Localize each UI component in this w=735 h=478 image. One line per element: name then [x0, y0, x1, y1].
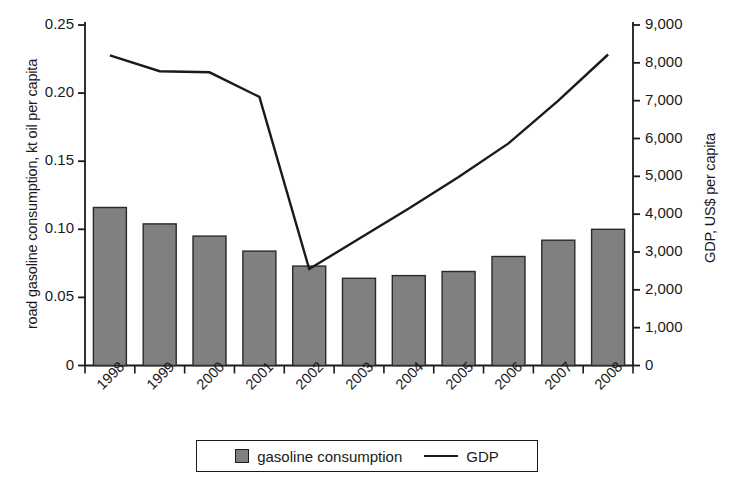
- right-axis-tick-label: 9,000: [645, 16, 715, 31]
- legend-item-gasoline-consumption: gasoline consumption: [235, 448, 402, 465]
- right-axis-tick-label: 7,000: [645, 92, 715, 107]
- bar: [143, 224, 176, 366]
- bar: [343, 278, 376, 365]
- right-axis-ticks: [633, 25, 640, 366]
- right-axis-tick-label: 8,000: [645, 54, 715, 69]
- left-axis-tick-label: 0.05: [14, 288, 74, 303]
- bar: [542, 240, 575, 365]
- right-axis-tick-label: 3,000: [645, 243, 715, 258]
- left-axis-title: road gasoline consumption, kt oil per ca…: [24, 14, 40, 374]
- bar: [293, 266, 326, 365]
- bar: [442, 272, 475, 366]
- right-axis-tick-label: 2,000: [645, 281, 715, 296]
- legend-label-gdp: GDP: [466, 448, 499, 465]
- right-axis-tick-label: 4,000: [645, 205, 715, 220]
- left-axis-tick-label: 0.20: [14, 84, 74, 99]
- legend: gasoline consumption GDP: [196, 440, 538, 472]
- bar: [93, 208, 126, 366]
- bar: [243, 251, 276, 365]
- right-axis-tick-label: 5,000: [645, 167, 715, 182]
- legend-label-gasoline-consumption: gasoline consumption: [257, 448, 402, 465]
- legend-item-gdp: GDP: [424, 448, 499, 465]
- bar: [392, 276, 425, 366]
- chart-container: road gasoline consumption, kt oil per ca…: [0, 0, 735, 478]
- right-axis-tick-label: 6,000: [645, 130, 715, 145]
- right-axis-title: GDP, US$ per capita: [702, 28, 718, 368]
- legend-square-icon: [235, 449, 249, 463]
- bar: [193, 236, 226, 365]
- legend-line-icon: [424, 455, 458, 457]
- plot-area: [0, 0, 735, 478]
- left-axis-tick-label: 0.10: [14, 220, 74, 235]
- left-axis-tick-label: 0: [14, 357, 74, 372]
- bar: [492, 257, 525, 366]
- bar-series-gasoline-consumption: [93, 208, 624, 366]
- bar: [592, 229, 625, 365]
- right-axis-tick-label: 0: [645, 357, 715, 372]
- left-axis-tick-label: 0.15: [14, 152, 74, 167]
- right-axis-tick-label: 1,000: [645, 319, 715, 334]
- left-axis-ticks: [78, 25, 85, 366]
- line-series-gdp: [110, 55, 608, 270]
- left-axis-tick-label: 0.25: [14, 16, 74, 31]
